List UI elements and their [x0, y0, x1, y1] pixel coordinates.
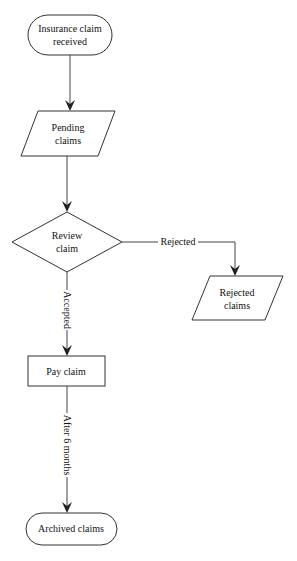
node-label: received — [53, 36, 87, 47]
edge-start-to-pending — [65, 55, 75, 111]
edge-pending-to-review — [62, 156, 72, 212]
node-label: Review — [52, 230, 83, 241]
edge-label-accepted: Accepted — [62, 291, 73, 329]
node-label: claim — [56, 243, 78, 254]
node-pay-claim: Pay claim — [28, 356, 105, 386]
edge-label-rejected: Rejected — [161, 236, 196, 247]
node-review-claim: Review claim — [12, 212, 122, 272]
node-label: Pay claim — [46, 366, 86, 377]
node-archived-claims: Archived claims — [26, 513, 117, 545]
node-label: Pending — [52, 122, 85, 133]
flowchart-canvas: Rejected Accepted After 6 months Insuran… — [0, 0, 297, 561]
node-label: Archived claims — [38, 523, 104, 534]
node-label: claims — [55, 135, 81, 146]
node-label: Rejected — [220, 287, 255, 298]
edge-review-to-pay: Accepted — [62, 272, 74, 356]
node-label: claims — [224, 300, 250, 311]
edge-label-after-6-months: After 6 months — [62, 415, 73, 476]
edge-review-to-rejected: Rejected — [122, 236, 240, 276]
node-rejected-claims: Rejected claims — [192, 276, 283, 320]
node-insurance-claim-received: Insurance claim received — [28, 15, 112, 55]
node-label: Insurance claim — [38, 23, 102, 34]
node-pending-claims: Pending claims — [21, 111, 115, 156]
edge-pay-to-archived: After 6 months — [62, 386, 74, 513]
